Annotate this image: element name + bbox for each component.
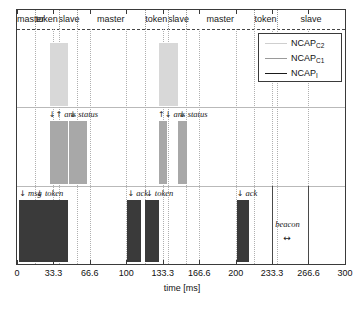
x-axis-tick: [17, 260, 18, 264]
legend-label: NCAPC1: [291, 51, 324, 66]
x-axis-tick-top: [126, 10, 127, 14]
x-axis-tick-label: 300: [329, 268, 361, 278]
pulse-burst-NCAP_I: [19, 200, 50, 263]
x-axis-tick: [126, 260, 127, 264]
annotation-text: token: [153, 188, 174, 198]
annotation-text: status: [186, 109, 208, 119]
legend-label-subscript: C1: [316, 57, 324, 64]
annotation-token: ↓ token: [36, 188, 63, 198]
x-axis-tick: [199, 260, 200, 264]
annotation-text: token: [43, 188, 64, 198]
legend-line-swatch: [265, 58, 287, 59]
legend-label: NCAPI: [291, 66, 318, 81]
phase-separator: [254, 10, 255, 29]
phase-separator: [145, 10, 146, 29]
annotation-ack: ↓ ack: [127, 188, 148, 198]
x-axis-tick: [272, 260, 273, 264]
phase-separator: [277, 10, 278, 29]
pulse-burst-NCAP_I: [237, 200, 249, 263]
x-axis-tick-label: 0: [1, 268, 33, 278]
x-axis-tick-label: 66.6: [74, 268, 106, 278]
legend-entry-NCAP-C1: NCAPC1: [259, 51, 341, 66]
legend-label-subscript: C2: [316, 42, 324, 49]
x-axis-label: time [ms]: [0, 283, 364, 293]
legend-line-swatch: [265, 43, 287, 44]
x-axis-tick: [163, 260, 164, 264]
row-divider: [17, 107, 345, 108]
pulse-burst-NCAP_C1: [50, 121, 69, 184]
legend-label-main: NCAP: [291, 53, 316, 63]
phase-label-master-0: master: [17, 10, 35, 29]
beacon-span-arrow-icon: ↔: [283, 233, 291, 243]
phase-label-master-6: master: [186, 10, 253, 29]
x-axis-tick: [90, 260, 91, 264]
legend: NCAPC2NCAPC1NCAPI: [258, 33, 342, 82]
pulse-burst-NCAP_I: [50, 200, 68, 263]
phase-label-slave-2: slave: [59, 10, 78, 29]
x-axis-tick: [308, 260, 309, 264]
pulse-burst-NCAP_C2: [50, 43, 69, 106]
annotation-text: status: [76, 109, 98, 119]
x-axis-tick-top: [236, 10, 237, 14]
legend-label: NCAPC2: [291, 36, 324, 51]
phase-separator: [77, 10, 78, 29]
phase-label-slave-5: slave: [168, 10, 187, 29]
row-divider: [17, 186, 345, 187]
legend-line-swatch: [265, 73, 287, 74]
grid-line: [90, 29, 91, 264]
beacon-label: beacon: [275, 219, 300, 229]
x-axis-tick-top: [17, 10, 18, 14]
pulse-burst-NCAP_C1: [178, 121, 187, 184]
x-axis-tick-label: 233.3: [256, 268, 288, 278]
annotation-arrow-icon: ↓: [146, 189, 153, 198]
x-axis-tick-label: 33.3: [37, 268, 69, 278]
annotation-token: ↓ token: [146, 188, 173, 198]
phase-label-token-1: token: [35, 10, 58, 29]
pulse-burst-NCAP_I: [145, 200, 159, 263]
x-axis-tick-label: 200: [220, 268, 252, 278]
x-axis-tick-top: [308, 10, 309, 14]
grid-line: [199, 29, 200, 264]
annotation-arrow-icon: ↓: [179, 110, 186, 119]
legend-entry-NCAP-C2: NCAPC2: [259, 36, 341, 51]
pulse-burst-NCAP_C1: [69, 121, 87, 184]
annotation-status: ↓ status: [179, 109, 208, 119]
x-axis-tick-label: 100: [110, 268, 142, 278]
legend-entry-NCAP-I: NCAPI: [259, 66, 341, 81]
phase-separator: [35, 10, 36, 29]
phase-label-token-4: token: [145, 10, 168, 29]
pulse-burst-NCAP_I: [127, 200, 141, 263]
timing-diagram-figure: mastertokenslavemastertokenslavemasterto…: [0, 0, 364, 315]
x-axis-tick: [236, 260, 237, 264]
annotation-arrow-icon: ↑↓: [158, 110, 171, 119]
x-axis-tick: [53, 260, 54, 264]
annotation-text: ack: [243, 188, 257, 198]
legend-label-subscript: I: [316, 72, 318, 79]
annotation-arrow-icon: ↓: [19, 189, 26, 198]
phase-label-slave-8: slave: [277, 10, 345, 29]
phase-separator: [168, 10, 169, 29]
phase-separator: [186, 10, 187, 29]
annotation-arrow-icon: ↓↑: [49, 110, 62, 119]
pulse-burst-NCAP_C2: [159, 43, 178, 106]
annotation-ack: ↓ ack: [237, 188, 258, 198]
x-axis-tick-top: [163, 10, 164, 14]
x-axis-tick-label: 133.3: [147, 268, 179, 278]
header-separator-line: [17, 29, 345, 30]
x-axis-tick-top: [53, 10, 54, 14]
annotation-arrow-icon: ↓: [36, 189, 43, 198]
phase-grid-line: [254, 29, 255, 264]
annotation-status: ↓ status: [69, 109, 98, 119]
phase-header-band: mastertokenslavemastertokenslavemasterto…: [17, 10, 345, 29]
phase-label-master-3: master: [77, 10, 144, 29]
phase-separator: [59, 10, 60, 29]
x-axis-tick-label: 166.6: [183, 268, 215, 278]
pulse-burst-NCAP_C1: [159, 121, 167, 184]
legend-label-main: NCAP: [291, 38, 316, 48]
phase-label-token-7: token: [254, 10, 277, 29]
x-axis-tick-top: [90, 10, 91, 14]
x-axis-tick-top: [272, 10, 273, 14]
beacon-end-line: [308, 186, 309, 264]
x-axis-tick-label: 266.6: [292, 268, 324, 278]
legend-label-main: NCAP: [291, 68, 316, 78]
